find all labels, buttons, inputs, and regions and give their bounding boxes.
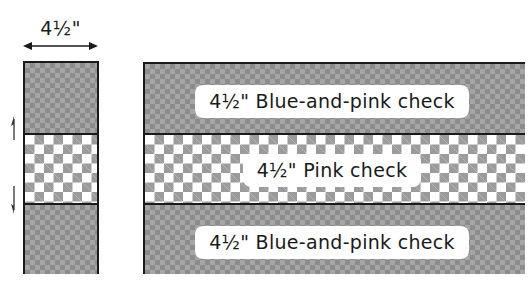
left-block-unit xyxy=(23,61,99,274)
block-segment-blue-and-pink xyxy=(25,203,97,274)
strip-label: 4½" Pink check xyxy=(243,154,421,187)
double-arrow-icon xyxy=(23,40,98,52)
strip-label: 4½" Blue-and-pink check xyxy=(195,85,469,118)
up-arrow-icon xyxy=(9,116,19,140)
down-arrow-icon xyxy=(9,186,19,214)
dimension-label: 4½" xyxy=(24,17,97,39)
block-segment-blue-and-pink xyxy=(25,63,97,135)
strip-set-panel: 4½" Blue-and-pink check 4½" Pink check 4… xyxy=(143,62,525,274)
strip-blue-and-pink-top: 4½" Blue-and-pink check xyxy=(145,64,525,135)
strip-pink-middle: 4½" Pink check xyxy=(145,135,525,203)
strip-blue-and-pink-bottom: 4½" Blue-and-pink check xyxy=(145,203,525,274)
block-segment-pink xyxy=(25,135,97,203)
strip-label: 4½" Blue-and-pink check xyxy=(195,226,469,259)
